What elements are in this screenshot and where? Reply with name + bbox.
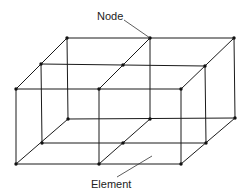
element-label: Element xyxy=(91,178,131,190)
node-point xyxy=(121,63,124,66)
node-point xyxy=(65,36,68,39)
node-point xyxy=(97,87,100,90)
node-point xyxy=(121,141,124,144)
node-point xyxy=(66,117,69,120)
node-point xyxy=(232,36,235,39)
node-point xyxy=(14,87,17,90)
node-point xyxy=(39,62,42,65)
node-leader-line xyxy=(124,20,150,38)
element-leader-line xyxy=(117,156,152,177)
mesh-nodes xyxy=(14,36,236,165)
mesh-edges xyxy=(16,38,235,164)
node-point xyxy=(179,162,182,165)
node-label: Node xyxy=(97,10,123,22)
node-point xyxy=(233,116,236,119)
node-point xyxy=(148,117,151,120)
fe-mesh-diagram: Node Element xyxy=(0,0,248,194)
node-point xyxy=(179,87,182,90)
node-point xyxy=(204,141,207,144)
node-point xyxy=(97,162,100,165)
node-point xyxy=(203,64,206,67)
node-point xyxy=(14,162,17,165)
node-point xyxy=(40,141,43,144)
